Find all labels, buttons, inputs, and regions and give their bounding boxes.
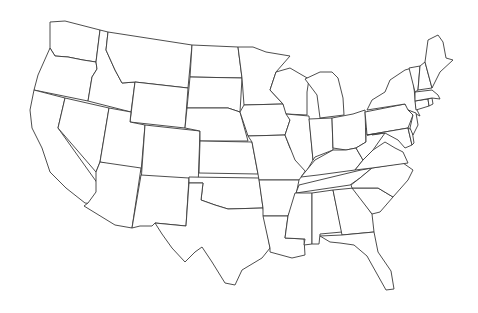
state-nm xyxy=(132,175,189,228)
state-ks xyxy=(199,141,258,174)
state-nd xyxy=(190,45,242,78)
state-sd xyxy=(187,77,242,112)
state-ri xyxy=(428,98,433,106)
state-mi xyxy=(305,72,344,118)
state-wy xyxy=(130,82,188,128)
us-states-outline-map xyxy=(0,0,478,313)
state-ia xyxy=(240,104,290,136)
state-fl xyxy=(320,232,394,290)
